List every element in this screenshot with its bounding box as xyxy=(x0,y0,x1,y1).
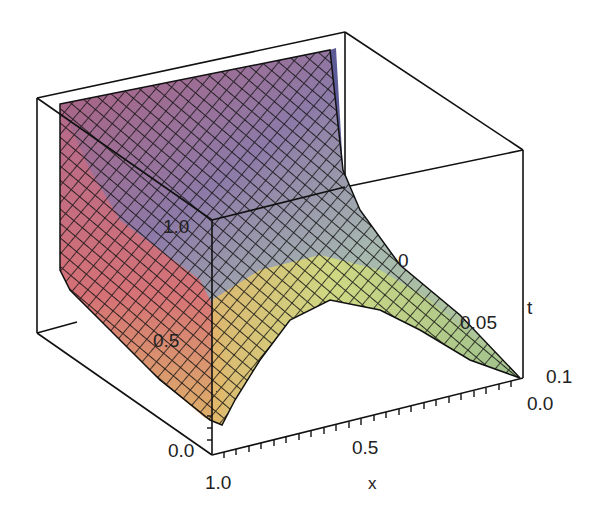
surface-plot xyxy=(0,0,601,511)
z-tick-0: 0.0 xyxy=(168,440,194,462)
t-tick-0: 0 xyxy=(398,250,409,272)
x-axis-label: x xyxy=(368,474,377,494)
t-axis-label: t xyxy=(527,297,532,319)
x-tick-1: 1.0 xyxy=(205,472,231,494)
t-tick-01: 0.1 xyxy=(546,366,572,388)
z-tick-05: 0.5 xyxy=(153,330,179,352)
t-tick-005: 0.05 xyxy=(460,312,497,334)
x-tick-05: 0.5 xyxy=(352,437,378,459)
z-tick-1: 1.0 xyxy=(163,216,189,238)
x-tick-0: 0.0 xyxy=(527,393,553,415)
